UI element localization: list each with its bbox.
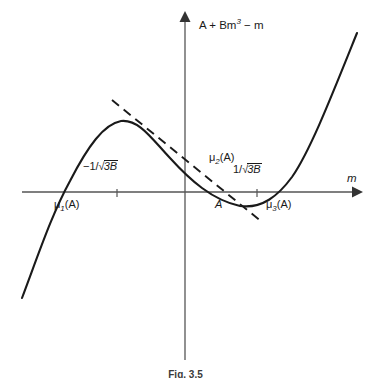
tangent-line-dashed: [112, 100, 262, 222]
tick-label-left-prefix: −1/: [83, 160, 99, 172]
y-axis-label: A + Bm3 − m: [199, 18, 264, 31]
cubic-function-plot: [0, 0, 371, 378]
root-label-mu3-arg: (A): [277, 198, 292, 210]
root-label-mu2-arg: (A): [220, 151, 235, 163]
tick-label-right: 1/√3B: [233, 163, 262, 175]
y-axis-label-tail: − m: [241, 19, 264, 31]
tick-label-left-radicand: 3B: [104, 160, 118, 172]
figure-caption: Fig. 3.5: [0, 369, 371, 378]
y-axis-label-main: A + B: [199, 19, 227, 31]
tick-label-right-radicand: 3B: [247, 163, 261, 175]
y-axis-arrowhead: [180, 11, 191, 22]
constant-label-a: A: [215, 199, 222, 210]
figure-container: A + Bm3 − m m −1/√3B 1/√3B μ1(A) μ2(A) μ…: [0, 0, 371, 378]
root-label-mu3: μ3(A): [266, 199, 291, 213]
tick-label-left: −1/√3B: [83, 160, 118, 172]
y-axis-label-variable: m: [227, 19, 237, 31]
cubic-curve: [22, 33, 357, 298]
root-label-mu2: μ2(A): [209, 152, 234, 166]
x-axis-label: m: [347, 173, 357, 185]
root-label-mu1: μ1(A): [54, 199, 79, 213]
x-axis-arrowhead: [352, 187, 363, 198]
root-label-mu1-arg: (A): [65, 198, 80, 210]
